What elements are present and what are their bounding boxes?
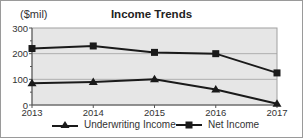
x-tick-label: 2014 (83, 107, 104, 118)
square-marker (151, 49, 158, 56)
x-tick-label: 2013 (21, 107, 42, 118)
y-tick-label: 300 (12, 23, 28, 34)
square-marker (212, 50, 219, 57)
legend-item-net-income: Net Income (176, 119, 259, 130)
y-tick-label: 200 (12, 48, 28, 59)
legend-item-underwriting-income: Underwriting Income (52, 119, 176, 130)
y-tick-label: 100 (12, 74, 28, 85)
legend-label: Net Income (208, 119, 259, 130)
x-tick-label: 2015 (144, 107, 165, 118)
triangle-marker-icon (52, 120, 78, 130)
plot-area (32, 28, 277, 105)
legend-label: Underwriting Income (84, 119, 176, 130)
square-marker-icon (176, 120, 202, 130)
chart-legend: Underwriting Income Net Income (0, 119, 303, 133)
square-marker (29, 45, 36, 52)
x-tick-label: 2017 (266, 107, 287, 118)
square-marker (274, 69, 281, 76)
line-chart: 010020030020132014201520162017 (0, 0, 303, 138)
square-marker (90, 42, 97, 49)
x-tick-label: 2016 (205, 107, 226, 118)
